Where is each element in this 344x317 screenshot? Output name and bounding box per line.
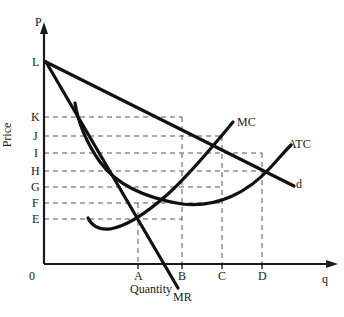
x-axis-symbol: q — [322, 273, 328, 285]
plot-canvas — [0, 0, 344, 317]
average-total-cost-curve — [75, 103, 291, 205]
x-tick-label-C: C — [218, 270, 226, 282]
y-tick-label-H: H — [31, 165, 40, 177]
x-tick-label-A: A — [134, 270, 143, 282]
y-axis-symbol: P — [35, 16, 42, 28]
y-tick-label-K: K — [31, 111, 40, 123]
y-tick-label-J: J — [33, 130, 38, 142]
mc-curve-label: MC — [237, 116, 256, 128]
x-tick-label-B: B — [178, 270, 186, 282]
mr-curve-label: MR — [173, 291, 192, 303]
x-tick-label-D: D — [258, 270, 267, 282]
y-tick-label-E: E — [32, 213, 39, 225]
x-axis-title: Quantity — [130, 283, 172, 295]
y-axis-title: Price — [0, 100, 15, 170]
y-tick-label-I: I — [34, 147, 38, 159]
y-tick-label-F: F — [32, 197, 39, 209]
atc-curve-label: ATC — [288, 138, 311, 150]
origin-label: 0 — [29, 270, 35, 282]
y-tick-label-G: G — [31, 181, 40, 193]
marginal-cost-curve — [88, 122, 233, 229]
y-tick-label-L: L — [32, 56, 39, 68]
economics-diagram: P Price L K J I H G F E 0 A B C D q Quan… — [0, 0, 344, 317]
horizontal-guide-lines — [44, 117, 262, 219]
x-axis-arrow — [326, 260, 338, 268]
demand-curve-label: d — [296, 178, 302, 190]
